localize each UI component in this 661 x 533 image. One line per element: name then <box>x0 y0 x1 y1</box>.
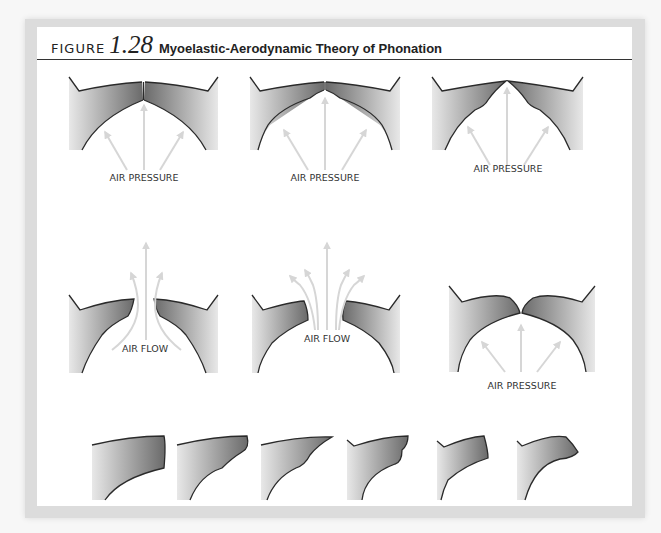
sequence-step-3 <box>261 437 332 500</box>
arrow-left <box>284 130 308 170</box>
panel-closed-1: AIR PRESSURE <box>69 77 218 183</box>
panel-label: AIR PRESSURE <box>291 172 360 183</box>
panel-open-1: AIR FLOW <box>69 243 218 373</box>
panel-closing: AIR PRESSURE <box>449 286 595 391</box>
arrow-right <box>160 132 183 170</box>
left-vocal-fold <box>69 77 143 150</box>
arrow-left <box>468 127 490 165</box>
sequence-step-4 <box>347 436 408 500</box>
left-vocal-fold <box>69 295 134 373</box>
arrow-left <box>482 342 505 372</box>
left-vocal-fold <box>432 77 506 150</box>
arrow-left <box>105 132 127 170</box>
sequence-step-1 <box>92 436 165 500</box>
panel-label: AIR PRESSURE <box>474 163 543 174</box>
sequence-step-2 <box>177 436 248 500</box>
right-vocal-fold <box>144 77 218 150</box>
panel-label: AIR PRESSURE <box>110 172 179 183</box>
panel-closed-3: AIR PRESSURE <box>432 77 583 174</box>
arrow-right <box>342 130 366 170</box>
arrow-right <box>524 127 548 165</box>
sequence-step-5 <box>437 436 488 500</box>
panel-closed-2: AIR PRESSURE <box>250 77 400 183</box>
panel-label: AIR FLOW <box>122 343 169 354</box>
arrow-right <box>537 342 560 372</box>
sequence-step-6 <box>517 436 578 500</box>
panel-label: AIR PRESSURE <box>488 380 557 391</box>
panel-label: AIR FLOW <box>304 333 351 344</box>
right-vocal-fold <box>508 77 583 150</box>
panel-open-2: AIR FLOW <box>252 243 400 373</box>
fold-sequence <box>92 436 578 500</box>
phonation-diagram: AIR PRESSURE AIR PRESSURE AIR PRESSURE A… <box>0 0 661 533</box>
